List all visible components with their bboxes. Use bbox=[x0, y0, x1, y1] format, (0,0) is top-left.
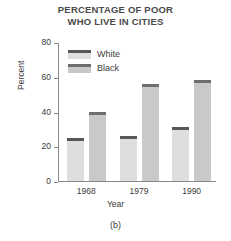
y-tick-40: 40 bbox=[54, 113, 58, 114]
y-tick-80: 80 bbox=[54, 43, 58, 44]
y-tick-label-0: 0 bbox=[46, 176, 51, 187]
bar-cap bbox=[142, 84, 159, 87]
bar-cap bbox=[194, 80, 211, 83]
bar-white-1990 bbox=[172, 127, 189, 181]
chart-title-line-2: WHO LIVE IN CITIES bbox=[0, 16, 231, 28]
x-tick-label-1968: 1968 bbox=[66, 186, 106, 196]
legend-swatch-cap bbox=[68, 64, 91, 67]
y-tick-label-60: 60 bbox=[42, 72, 51, 83]
x-tick-label-1979: 1979 bbox=[119, 186, 159, 196]
y-tick-label-20: 20 bbox=[42, 141, 51, 152]
chart-title: PERCENTAGE OF POOR WHO LIVE IN CITIES bbox=[0, 4, 231, 28]
x-axis-title: Year bbox=[0, 199, 231, 209]
y-tick-label-80: 80 bbox=[42, 37, 51, 48]
legend-entry-black: Black bbox=[68, 61, 120, 75]
y-tick-label-40: 40 bbox=[42, 107, 51, 118]
legend-label-black: Black bbox=[97, 63, 119, 74]
legend-swatch-cap bbox=[68, 50, 91, 53]
figure-caption: (b) bbox=[0, 220, 231, 230]
bar-black-1979 bbox=[142, 84, 159, 181]
y-tick-60: 60 bbox=[54, 78, 58, 79]
chart-title-line-1: PERCENTAGE OF POOR bbox=[0, 4, 231, 16]
bar-black-1990 bbox=[194, 80, 211, 181]
y-tick-0: 0 bbox=[54, 182, 58, 183]
legend-entry-white: White bbox=[68, 47, 120, 61]
bar-black-1968 bbox=[89, 112, 106, 182]
chart-figure: PERCENTAGE OF POOR WHO LIVE IN CITIES Pe… bbox=[0, 0, 231, 241]
legend-swatch-black bbox=[68, 64, 91, 73]
bar-cap bbox=[120, 136, 137, 139]
bar-white-1979 bbox=[120, 136, 137, 181]
legend-swatch-white bbox=[68, 50, 91, 59]
y-tick-20: 20 bbox=[54, 147, 58, 148]
x-axis-line bbox=[58, 181, 216, 182]
bar-cap bbox=[172, 127, 189, 130]
bar-white-1968 bbox=[67, 138, 84, 181]
legend: WhiteBlack bbox=[68, 47, 120, 75]
x-tick-label-1990: 1990 bbox=[172, 186, 212, 196]
y-axis-line bbox=[58, 43, 59, 182]
y-axis-title: Percent bbox=[16, 61, 26, 90]
bar-cap bbox=[89, 112, 106, 115]
bar-cap bbox=[67, 138, 84, 141]
legend-label-white: White bbox=[97, 49, 120, 60]
